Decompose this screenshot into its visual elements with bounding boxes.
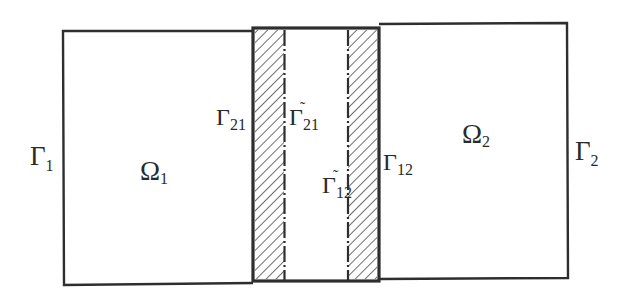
omega1-symbol: Ω: [140, 156, 160, 186]
gamma21-symbol: Γ: [216, 104, 230, 130]
gamma21-tilde-mark: ˜: [300, 99, 306, 116]
omega2-label: Ω2: [462, 119, 490, 150]
omega2-boundary: [379, 23, 568, 279]
gamma2-label: Γ2: [575, 136, 599, 169]
omega1-label: Ω1: [140, 156, 168, 187]
left-overlap-strip: [255, 30, 284, 279]
domain-decomposition-diagram: Γ1 Ω1 Γ21 Γ21 ˜ Ω2 Γ12 Γ12 ˜ Γ2: [0, 0, 629, 303]
gamma12-subscript: 12: [397, 161, 413, 178]
gamma2-subscript: 2: [591, 152, 599, 169]
omega2-symbol: Ω: [462, 119, 482, 149]
gamma12-symbol: Γ: [383, 149, 397, 175]
gamma21-tilde-subscript: 21: [303, 116, 319, 133]
right-overlap-strip: [348, 30, 377, 279]
gamma2-symbol: Γ: [575, 136, 591, 166]
gamma21-label: Γ21: [216, 104, 246, 133]
omega2-subscript: 2: [482, 133, 490, 150]
omega1-subscript: 1: [160, 170, 168, 187]
gamma12-label: Γ12: [383, 149, 413, 178]
gamma12-tilde-mark: ˜: [333, 167, 339, 184]
gamma21-subscript: 21: [230, 116, 246, 133]
gamma1-subscript: 1: [46, 157, 54, 174]
gamma12-tilde-subscript: 12: [336, 184, 352, 201]
gamma1-label: Γ1: [30, 141, 54, 174]
gamma1-symbol: Γ: [30, 141, 46, 171]
